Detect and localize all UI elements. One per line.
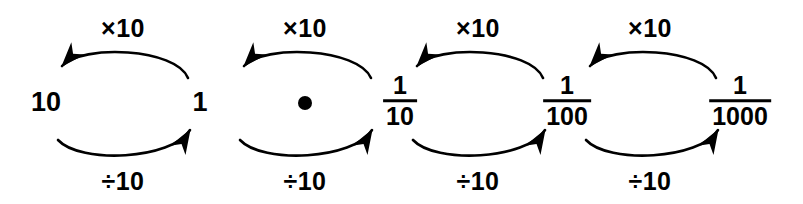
multiply-label-cycle-2: ×10 [283,16,327,41]
place-value-cycle-diagram: 10 1 1 10 1 100 1 1000 ×10 ÷10 ×10 ÷10 ×… [0,0,803,204]
cycle-4-arrows [586,52,718,156]
multiply-label-cycle-3: ×10 [456,16,500,41]
divide-arc-1 [58,130,190,156]
node-one-hundredth: 1 100 [543,72,591,130]
fraction-denominator: 10 [383,103,417,130]
decimal-point-dot-icon [298,96,312,110]
divide-arc-2 [240,130,372,156]
divide-label-cycle-4: ÷10 [628,169,671,194]
divide-arc-4 [586,130,718,156]
node-ten: 10 [31,89,61,116]
multiply-arc-2 [244,52,371,78]
fraction-denominator: 100 [543,103,591,130]
node-one: 1 [192,89,207,116]
cycle-1-arrows [58,52,190,156]
node-one-tenth: 1 10 [383,72,417,130]
fraction-numerator: 1 [730,72,750,99]
multiply-arc-3 [417,52,543,78]
cycle-3-arrows [413,52,545,156]
multiply-label-cycle-1: ×10 [101,16,145,41]
divide-label-cycle-2: ÷10 [283,169,326,194]
fraction-numerator: 1 [557,72,577,99]
multiply-arc-1 [62,52,188,78]
multiply-arc-4 [590,52,716,78]
fraction-numerator: 1 [390,72,410,99]
divide-label-cycle-1: ÷10 [101,169,144,194]
divide-label-cycle-3: ÷10 [456,169,499,194]
multiply-label-cycle-4: ×10 [628,16,672,41]
fraction-denominator: 1000 [709,103,771,130]
node-one-thousandth: 1 1000 [709,72,771,130]
divide-arc-3 [413,130,545,156]
